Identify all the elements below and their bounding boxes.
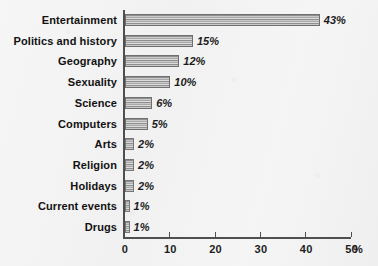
- bar-value-label: 10%: [174, 72, 196, 92]
- bar-value-label: 12%: [183, 51, 205, 71]
- category-label: Arts: [0, 134, 117, 154]
- category-label: Holidays: [0, 176, 117, 196]
- bar-row: Holidays2%: [0, 176, 378, 196]
- bar: [125, 159, 134, 171]
- bar: [125, 221, 130, 233]
- x-axis-tick-label: 40: [300, 243, 313, 255]
- bar: [125, 200, 130, 212]
- category-label: Drugs: [0, 217, 117, 237]
- bar-row: Current events1%: [0, 196, 378, 216]
- bar-value-label: 2%: [138, 134, 154, 154]
- category-label: Science: [0, 93, 117, 113]
- bar-row: Entertainment43%: [0, 10, 378, 30]
- bar-value-label: 2%: [138, 176, 154, 196]
- bar: [125, 55, 179, 67]
- bar-chart: 01020304050 % Entertainment43%Politics a…: [0, 0, 378, 266]
- x-axis-line: [123, 237, 351, 239]
- bar: [125, 180, 134, 192]
- bar-row: Politics and history15%: [0, 31, 378, 51]
- bar: [125, 118, 148, 130]
- bar: [125, 14, 320, 26]
- category-label: Entertainment: [0, 10, 117, 30]
- x-axis-unit-label: %: [353, 243, 363, 255]
- category-label: Computers: [0, 114, 117, 134]
- bar-row: Sexuality10%: [0, 72, 378, 92]
- bar-value-label: 1%: [134, 217, 150, 237]
- bar-row: Computers5%: [0, 114, 378, 134]
- category-label: Politics and history: [0, 31, 117, 51]
- plot-area: 01020304050 % Entertainment43%Politics a…: [0, 0, 378, 266]
- bar-value-label: 43%: [324, 10, 346, 30]
- bar-value-label: 15%: [197, 31, 219, 51]
- x-axis-tick-label: 10: [164, 243, 177, 255]
- category-label: Religion: [0, 155, 117, 175]
- bar-value-label: 5%: [152, 114, 168, 134]
- bar-row: Science6%: [0, 93, 378, 113]
- bar: [125, 76, 170, 88]
- bar-value-label: 2%: [138, 155, 154, 175]
- bar-row: Geography12%: [0, 51, 378, 71]
- bar-row: Drugs1%: [0, 217, 378, 237]
- bar-value-label: 6%: [156, 93, 172, 113]
- bar-row: Arts2%: [0, 134, 378, 154]
- bar-value-label: 1%: [134, 196, 150, 216]
- bar: [125, 138, 134, 150]
- x-axis-tick-label: 0: [122, 243, 128, 255]
- category-label: Sexuality: [0, 72, 117, 92]
- bar: [125, 35, 193, 47]
- category-label: Geography: [0, 51, 117, 71]
- x-axis-tick-label: 20: [209, 243, 222, 255]
- category-label: Current events: [0, 196, 117, 216]
- bar: [125, 97, 152, 109]
- x-axis-tick-label: 30: [255, 243, 268, 255]
- bar-row: Religion2%: [0, 155, 378, 175]
